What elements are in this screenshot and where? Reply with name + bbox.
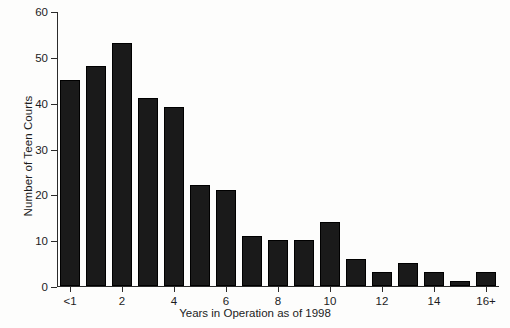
y-tick-label: 30 — [35, 144, 48, 156]
y-axis-title: Number of Teen Courts — [22, 66, 34, 246]
bar — [320, 222, 340, 286]
x-tick-label: 4 — [171, 295, 177, 307]
y-tick-mark — [51, 12, 57, 13]
bar — [112, 43, 132, 286]
y-tick-label: 10 — [35, 235, 48, 247]
y-axis-line — [57, 12, 58, 287]
y-tick-mark — [51, 195, 57, 196]
x-tick-mark — [486, 287, 487, 292]
bar — [60, 80, 80, 286]
x-tick-label: 14 — [428, 295, 441, 307]
bar — [424, 272, 444, 286]
bar — [476, 272, 496, 286]
bar — [190, 185, 210, 286]
x-tick-label: 16+ — [476, 295, 496, 307]
x-tick-mark — [382, 287, 383, 292]
bar — [86, 66, 106, 286]
x-tick-label: 6 — [223, 295, 229, 307]
y-tick-mark — [51, 287, 57, 288]
y-tick-label: 40 — [35, 98, 48, 110]
x-tick-mark — [330, 287, 331, 292]
x-tick-label: 12 — [376, 295, 389, 307]
bar — [346, 259, 366, 287]
y-tick-mark — [51, 150, 57, 151]
bar — [398, 263, 418, 286]
bar — [268, 240, 288, 286]
x-tick-mark — [278, 287, 279, 292]
y-tick-mark — [51, 58, 57, 59]
x-tick-mark — [226, 287, 227, 292]
bar — [294, 240, 314, 286]
x-tick-mark — [434, 287, 435, 292]
bar — [216, 190, 236, 286]
y-tick-mark — [51, 104, 57, 105]
y-tick-label: 20 — [35, 189, 48, 201]
bar — [138, 98, 158, 286]
x-tick-label: <1 — [63, 295, 76, 307]
bar — [450, 281, 470, 286]
x-tick-label: 8 — [275, 295, 281, 307]
bar — [372, 272, 392, 286]
x-tick-mark — [174, 287, 175, 292]
y-tick-label: 60 — [35, 6, 48, 18]
x-tick-mark — [122, 287, 123, 292]
x-tick-label: 10 — [324, 295, 337, 307]
x-tick-mark — [70, 287, 71, 292]
bar — [164, 107, 184, 286]
y-tick-mark — [51, 241, 57, 242]
x-axis-title: Years in Operation as of 1998 — [0, 307, 510, 319]
plot-area: 0102030405060 <1246810121416+ — [57, 12, 499, 287]
bar-chart: Number of Teen Courts 0102030405060 <124… — [0, 0, 510, 328]
x-tick-label: 2 — [119, 295, 125, 307]
y-tick-label: 0 — [42, 281, 48, 293]
y-tick-label: 50 — [35, 52, 48, 64]
bar — [242, 236, 262, 286]
